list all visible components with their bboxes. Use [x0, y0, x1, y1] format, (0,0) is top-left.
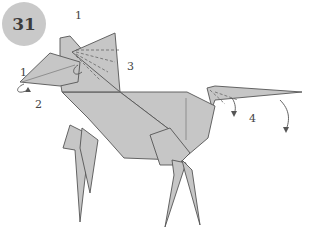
- rear-leg-b: [182, 160, 200, 225]
- origami-horse-diagram: 1 1 2 3 4: [0, 0, 314, 235]
- label-4: 4: [249, 112, 256, 125]
- rear-leg-a: [165, 160, 186, 227]
- label-3: 3: [127, 60, 134, 73]
- label-2: 2: [35, 98, 42, 111]
- label-1b: 1: [20, 66, 27, 79]
- tail: [207, 86, 302, 108]
- label-1: 1: [75, 9, 82, 22]
